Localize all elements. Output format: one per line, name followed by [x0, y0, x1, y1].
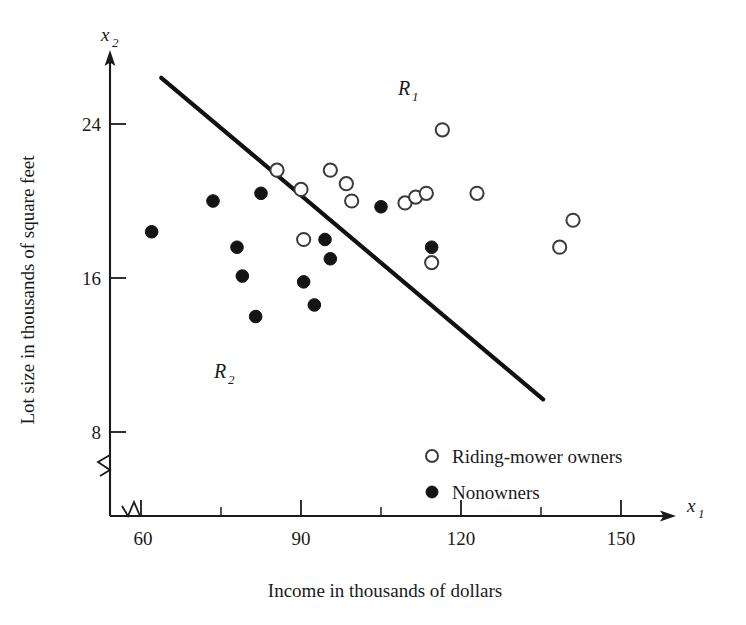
- y-tick-label-24: 24: [82, 114, 102, 135]
- data-point-nonowner-8: [319, 233, 332, 246]
- data-point-nonowner-4: [249, 310, 262, 323]
- x-tick-label-90: 90: [292, 528, 311, 549]
- x-axis: [110, 511, 676, 522]
- legend-label-nonowners: Nonowners: [452, 482, 540, 503]
- data-point-nonowner-7: [308, 299, 321, 312]
- region-label-r2: R 2: [213, 360, 235, 387]
- data-point-owner-1: [294, 183, 307, 196]
- data-point-owner-4: [340, 177, 353, 190]
- y-axis-variable-letter: x: [100, 24, 110, 45]
- data-point-nonowner-1: [207, 195, 220, 208]
- legend-marker-filled-circle: [426, 486, 438, 498]
- data-point-nonowner-3: [236, 270, 249, 283]
- y-axis: [105, 50, 116, 516]
- data-point-owner-8: [420, 187, 433, 200]
- y-tick-label-16: 16: [82, 268, 101, 289]
- data-point-nonowner-11: [425, 241, 438, 254]
- data-point-owner-12: [553, 241, 566, 254]
- y-axis-variable-subscript: 2: [112, 35, 119, 50]
- legend-label-riding-mower-owners: Riding-mower owners: [452, 446, 622, 467]
- x-tick-label-60: 60: [134, 528, 153, 549]
- region-label-r1-subscript: 1: [412, 89, 419, 104]
- x-axis-variable-subscript: 1: [698, 506, 705, 521]
- x-axis-variable: x 1: [686, 495, 705, 521]
- data-point-nonowner-9: [324, 252, 337, 265]
- legend: Riding-mower owners Nonowners: [426, 446, 622, 503]
- x-axis-title: Income in thousands of dollars: [268, 580, 502, 601]
- data-point-nonowner-0: [145, 226, 158, 239]
- data-point-nonowner-6: [297, 276, 310, 289]
- y-axis-title: Lot size in thousands of square feet: [17, 155, 38, 425]
- scatter-plot-svg: 24 16 8 60 90 120 150 x 2 x: [0, 0, 746, 625]
- region-label-r1: R 1: [397, 77, 419, 104]
- data-point-owner-13: [566, 214, 579, 227]
- legend-marker-open-circle: [426, 450, 438, 462]
- x-axis-break-zigzag: [122, 502, 140, 516]
- series-nonowners: [145, 187, 438, 323]
- scatter-plot-figure: 24 16 8 60 90 120 150 x 2 x: [0, 0, 746, 625]
- x-tick-labels: 60 90 120 150: [134, 528, 636, 549]
- x-tick-label-120: 120: [447, 528, 476, 549]
- region-label-r2-subscript: 2: [228, 372, 235, 387]
- data-point-owner-10: [436, 123, 449, 136]
- y-tick-labels: 24 16 8: [82, 114, 102, 443]
- y-axis-variable: x 2: [100, 24, 119, 50]
- region-label-r1-letter: R: [397, 77, 410, 99]
- x-tick-label-150: 150: [607, 528, 636, 549]
- x-axis-variable-letter: x: [686, 495, 696, 516]
- y-axis-break-zigzag: [98, 455, 110, 476]
- data-point-owner-9: [425, 256, 438, 269]
- x-ticks-minor: [221, 507, 541, 516]
- y-ticks: [110, 124, 126, 432]
- data-point-owner-2: [297, 233, 310, 246]
- data-point-nonowner-5: [255, 187, 268, 200]
- data-point-owner-11: [470, 187, 483, 200]
- data-point-nonowner-2: [231, 241, 244, 254]
- data-point-owner-0: [270, 164, 283, 177]
- region-label-r2-letter: R: [213, 360, 226, 382]
- data-point-owner-5: [345, 194, 358, 207]
- discriminant-line: [161, 78, 543, 399]
- data-point-owner-3: [324, 164, 337, 177]
- data-point-nonowner-10: [375, 200, 388, 213]
- y-tick-label-8: 8: [92, 422, 102, 443]
